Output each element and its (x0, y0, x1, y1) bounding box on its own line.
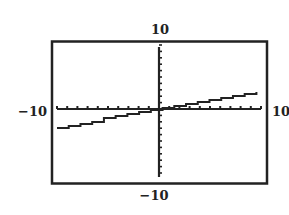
axes (57, 47, 261, 177)
ymax-label: 10 (151, 22, 169, 37)
xmin-label: −10 (18, 104, 47, 119)
ymin-label: −10 (140, 188, 169, 203)
xmax-label: 10 (272, 104, 289, 119)
graph-window: 10 −10 −10 10 (0, 0, 289, 215)
